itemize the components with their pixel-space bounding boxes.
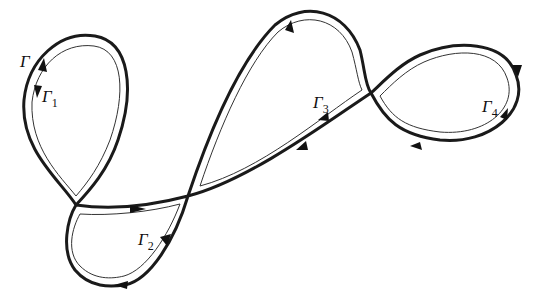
loop-gamma4 bbox=[380, 53, 509, 132]
arrow-gamma1 bbox=[34, 85, 42, 98]
arrow-gamma4-bottom bbox=[410, 142, 422, 150]
arrow-bottom-left bbox=[114, 281, 128, 289]
label-gamma4: Γ4 bbox=[481, 97, 498, 120]
outer-contour-gamma bbox=[24, 11, 519, 286]
label-gamma3: Γ3 bbox=[312, 93, 329, 116]
contour-diagram: Γ Γ1 Γ2 Γ3 Γ4 bbox=[0, 0, 534, 307]
label-gamma: Γ bbox=[19, 52, 31, 71]
label-gamma1: Γ1 bbox=[41, 87, 58, 110]
arrow-gamma4 bbox=[500, 108, 508, 120]
label-gamma2: Γ2 bbox=[137, 230, 154, 253]
